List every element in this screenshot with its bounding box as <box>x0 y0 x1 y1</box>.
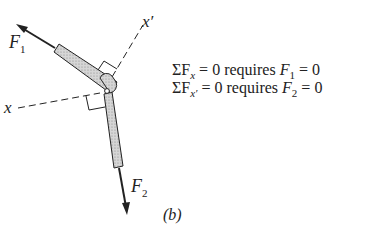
pin-icon <box>105 89 110 94</box>
two-force-member-diagram <box>0 0 377 247</box>
member-2 <box>104 92 123 168</box>
f2-arrow-shaft <box>119 168 126 207</box>
right-angle-mark-xprime <box>98 61 117 70</box>
f1-arrow-shaft <box>22 28 55 48</box>
f2-arrowhead-icon <box>122 202 130 215</box>
force-2-label: F2 <box>131 176 148 199</box>
equation-sum-fxprime: ΣFx′ = 0 requires F2 = 0 <box>172 79 322 99</box>
force-1-label: F1 <box>9 32 26 55</box>
figure-caption: (b) <box>163 206 182 224</box>
x-axis-label: x <box>4 98 12 118</box>
x-prime-axis-label: x′ <box>142 12 153 32</box>
right-angle-mark-x <box>86 96 105 110</box>
